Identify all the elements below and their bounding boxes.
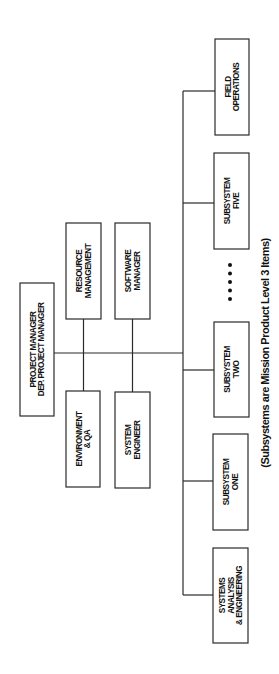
- systems-analysis-engineering-box: SYSTEMSANALYSIS& ENGINEERING: [213, 548, 248, 643]
- connector-lines: [54, 91, 215, 595]
- resource-management-label: RESOURCEMANAGEMENT: [75, 243, 93, 298]
- field-operations-box: FIELDOPERATIONS: [215, 39, 249, 135]
- project-manager-label: PROJECT MANAGERDEP. PROJECT MANAGER: [29, 302, 47, 396]
- subsystem-one-label-line: ONE: [231, 473, 240, 490]
- ellipsis-dots: [228, 263, 232, 301]
- subsystem-five-box: SUBSYSTEMFIVE: [214, 153, 249, 249]
- project-manager-label-line: DEP. PROJECT MANAGER: [37, 302, 46, 396]
- ellipsis-dot: [228, 272, 232, 276]
- software-manager-box: SOFTWAREMANAGER: [115, 223, 150, 319]
- resource-management-box: RESOURCEMANAGEMENT: [66, 223, 101, 319]
- system-engineer-label-line: ENGINEER: [133, 420, 142, 459]
- org-boxes: PROJECT MANAGERDEP. PROJECT MANAGERRESOU…: [20, 39, 249, 643]
- subsystem-five-label-line: FIVE: [232, 192, 241, 209]
- field-operations-label-line: OPERATIONS: [232, 62, 241, 112]
- ellipsis-dot: [228, 297, 232, 301]
- subsystem-two-box: SUBSYSTEMTWO: [214, 322, 249, 417]
- project-manager-box: PROJECT MANAGERDEP. PROJECT MANAGER: [20, 283, 54, 416]
- systems-analysis-engineering-label-line: & ENGINEERING: [235, 566, 244, 625]
- ellipsis-dot: [228, 263, 232, 267]
- system-engineer-box: SYSTEMENGINEER: [115, 392, 150, 488]
- software-manager-label-line: MANAGER: [133, 251, 142, 290]
- subsystem-two-label-line: TWO: [232, 360, 241, 379]
- ellipsis-dot: [228, 280, 232, 284]
- subsystem-one-box: SUBSYSTEMONE: [213, 434, 248, 530]
- environment-qa-label-line: & QA: [83, 429, 92, 448]
- environment-qa-box: ENVIRONMENT& QA: [66, 391, 100, 487]
- system-engineer-label: SYSTEMENGINEER: [124, 420, 142, 459]
- resource-management-label-line: MANAGEMENT: [84, 243, 93, 298]
- ellipsis-dot: [228, 289, 232, 293]
- org-chart: PROJECT MANAGERDEP. PROJECT MANAGERRESOU…: [0, 0, 279, 674]
- diagram-caption: (Subsystems are Mission Product Level 3 …: [259, 237, 271, 467]
- software-manager-label: SOFTWAREMANAGER: [124, 249, 142, 292]
